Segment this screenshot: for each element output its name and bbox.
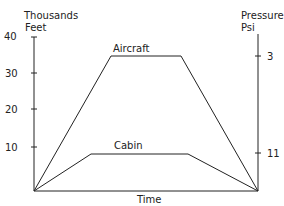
tick-11: 11 <box>267 148 280 159</box>
right-axis-title-unit: Psi <box>241 22 255 33</box>
tick-30: 30 <box>5 68 18 79</box>
right-axis-title: Pressure <box>241 10 284 21</box>
tick-10: 10 <box>5 142 18 153</box>
cabin-series <box>34 154 258 191</box>
tick-3: 3 <box>267 51 273 62</box>
tick-40: 40 <box>4 31 17 42</box>
aircraft-label: Aircraft <box>113 43 150 54</box>
x-axis-title: Time <box>137 194 161 205</box>
aircraft-series <box>34 56 258 191</box>
cabin-label: Cabin <box>114 140 143 151</box>
left-axis-title-unit: Feet <box>25 22 46 33</box>
left-axis-title: Thousands <box>24 10 78 21</box>
tick-20: 20 <box>5 104 18 115</box>
